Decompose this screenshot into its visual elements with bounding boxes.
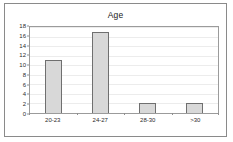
y-axis-tickmark: [27, 45, 29, 46]
bar-slot: [30, 27, 77, 113]
bar[interactable]: [92, 32, 109, 113]
y-axis-tickmark: [27, 65, 29, 66]
y-axis-tick-label: 10: [19, 62, 26, 68]
x-axis-tickmark: [77, 113, 125, 115]
x-axis-tick-label: 24-27: [77, 116, 125, 130]
bar-series: [30, 27, 218, 113]
y-axis-tickmark: [27, 104, 29, 105]
x-axis-tick-label: 20-23: [29, 116, 77, 130]
y-axis-tick-label: 4: [23, 91, 26, 97]
x-axis-tickmark: [124, 113, 172, 115]
bar-slot: [124, 27, 171, 113]
x-axis-tickmarks: [29, 113, 219, 115]
y-axis-tick-label: 6: [23, 82, 26, 88]
y-axis-tickmark: [27, 55, 29, 56]
y-axis-tick-label: 18: [19, 23, 26, 29]
plot-area: [29, 26, 219, 114]
bar[interactable]: [139, 103, 156, 113]
y-axis-tickmark: [27, 84, 29, 85]
y-axis-tick-label: 8: [23, 72, 26, 78]
bar-slot: [77, 27, 124, 113]
x-axis-tickmark: [172, 113, 220, 115]
bar-slot: [171, 27, 218, 113]
y-axis-tickmark: [27, 26, 29, 27]
bar[interactable]: [45, 60, 62, 113]
bar[interactable]: [186, 103, 203, 113]
y-axis-tickmark: [27, 74, 29, 75]
chart-title: Age: [5, 10, 226, 20]
x-axis-tickmark: [29, 113, 77, 115]
y-axis-tickmark: [27, 94, 29, 95]
y-axis-tickmark: [27, 35, 29, 36]
y-axis-tick-label: 12: [19, 52, 26, 58]
x-axis-tick-label: >30: [172, 116, 220, 130]
y-axis-tick-label: 14: [19, 43, 26, 49]
y-axis-tick-label: 16: [19, 33, 26, 39]
x-axis-labels: 20-2324-2728-30>30: [29, 116, 219, 130]
y-axis-tick-label: 2: [23, 101, 26, 107]
x-axis-tick-label: 28-30: [124, 116, 172, 130]
chart-figure: Age 181614121086420 20-2324-2728-30>30: [4, 3, 227, 137]
y-axis-tick-label: 0: [23, 111, 26, 117]
plot-wrapper: 181614121086420: [29, 26, 219, 114]
